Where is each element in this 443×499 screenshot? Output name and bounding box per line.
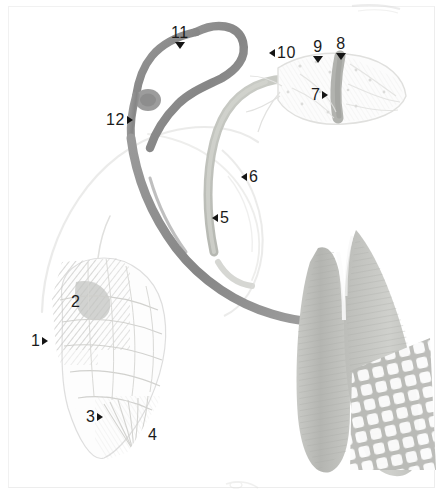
label-5: 5 xyxy=(212,210,229,226)
label-3: 3 xyxy=(86,409,103,425)
label-8-text: 8 xyxy=(336,36,345,52)
label-6-text: 6 xyxy=(249,169,258,185)
label-7-text: 7 xyxy=(311,87,320,103)
label-6: 6 xyxy=(241,169,258,185)
label-8: 8 xyxy=(336,36,346,60)
label-12: 12 xyxy=(106,112,133,128)
label-1-right-triangle-icon xyxy=(42,337,48,345)
label-9-text: 9 xyxy=(313,39,322,55)
label-3-text: 3 xyxy=(86,409,95,425)
label-12-text: 12 xyxy=(106,112,125,128)
label-7-right-triangle-icon xyxy=(322,91,328,99)
label-2: 2 xyxy=(71,294,80,310)
faint-top-marks xyxy=(352,5,400,13)
label-7: 7 xyxy=(311,87,328,103)
label-6-left-triangle-icon xyxy=(241,173,247,181)
label-3-right-triangle-icon xyxy=(97,413,103,421)
label-9: 9 xyxy=(313,39,323,63)
faint-bottom-marks xyxy=(226,482,258,488)
label-11-down-triangle-icon xyxy=(175,42,185,49)
figure-plate: 111098712652134 xyxy=(0,0,443,499)
label-11: 11 xyxy=(171,25,189,49)
label-9-down-triangle-icon xyxy=(313,56,323,63)
label-5-left-triangle-icon xyxy=(212,214,218,222)
lower-stem-dark xyxy=(131,138,316,321)
label-5-text: 5 xyxy=(220,210,229,226)
botanical-artwork xyxy=(0,0,443,499)
label-12-right-triangle-icon xyxy=(127,116,133,124)
label-4: 4 xyxy=(148,427,157,443)
label-10-text: 10 xyxy=(277,45,296,61)
label-2-text: 2 xyxy=(71,294,80,310)
label-8-down-triangle-icon xyxy=(336,53,346,60)
label-4-text: 4 xyxy=(148,427,157,443)
label-11-text: 11 xyxy=(171,25,189,41)
label-10-left-triangle-icon xyxy=(269,49,275,57)
label-1: 1 xyxy=(31,333,48,349)
label-1-text: 1 xyxy=(31,333,40,349)
label-10: 10 xyxy=(269,45,296,61)
